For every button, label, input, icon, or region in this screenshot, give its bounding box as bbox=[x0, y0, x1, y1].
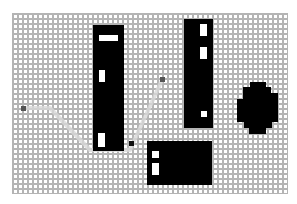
obstacle-gap bbox=[201, 111, 207, 117]
start-marker[interactable] bbox=[21, 106, 26, 111]
obstacle-gap bbox=[200, 47, 207, 59]
obstacle-gap bbox=[152, 163, 159, 175]
goal-marker[interactable] bbox=[160, 77, 165, 82]
obstacle-gap bbox=[99, 35, 118, 41]
obstacle-pillar-right bbox=[184, 19, 213, 128]
waypoint-marker[interactable] bbox=[129, 141, 134, 146]
obstacle-gap bbox=[99, 70, 105, 82]
obstacle-gap bbox=[152, 151, 159, 158]
obstacle-gap bbox=[200, 24, 207, 36]
obstacle-gap bbox=[98, 133, 105, 147]
